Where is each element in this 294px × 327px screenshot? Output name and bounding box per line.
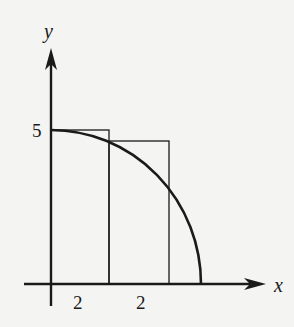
y-tick-label-5: 5 xyxy=(32,120,42,141)
curve xyxy=(51,130,201,284)
rectangle-1 xyxy=(51,130,109,284)
y-axis-label: y xyxy=(42,20,53,43)
diagram-canvas: y x 5 2 2 xyxy=(0,0,294,327)
width-label-1: 2 xyxy=(73,292,83,313)
x-axis-label: x xyxy=(273,274,283,296)
rectangle-2 xyxy=(109,141,169,284)
width-label-2: 2 xyxy=(136,292,146,313)
